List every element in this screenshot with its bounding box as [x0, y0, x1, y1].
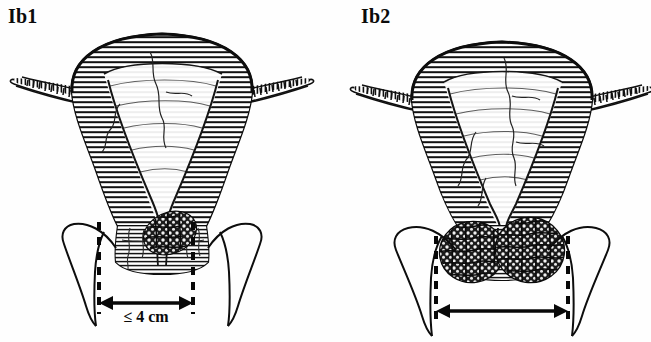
panel-ib2: Ib2: [326, 0, 651, 342]
anatomy-illustration-ib2: [326, 0, 651, 342]
uterine-corpus-ib1: [60, 30, 270, 230]
figure-root: Ib1: [0, 0, 651, 342]
uterine-corpus-ib2: [400, 38, 610, 238]
measurement-arrow-ib2: [436, 304, 568, 318]
panel-ib1: Ib1: [0, 0, 325, 342]
measurement-label-ib1: ≤ 4 cm: [98, 309, 194, 325]
anatomy-illustration-ib1: [0, 0, 325, 342]
